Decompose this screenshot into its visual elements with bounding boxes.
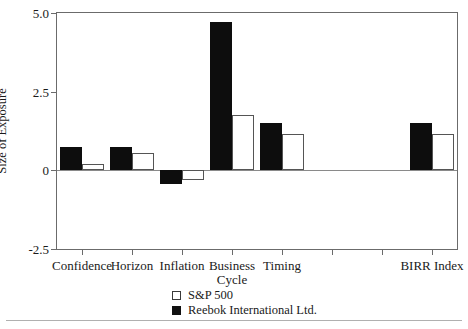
legend-label-reebok: Reebok International Ltd. [188, 303, 317, 318]
chart-legend: S&P 500 Reebok International Ltd. [172, 288, 317, 318]
bar-reebok [160, 170, 182, 184]
bar-sp500 [182, 170, 204, 179]
x-tick-mark [332, 249, 333, 255]
x-axis-category-label: Inflation [160, 259, 205, 273]
y-tick-mark [51, 170, 57, 171]
x-tick-mark [432, 249, 433, 255]
legend-item-sp500: S&P 500 [172, 288, 317, 303]
open-square-swatch-icon [172, 291, 181, 300]
x-axis-category-label: BusinessCycle [209, 259, 255, 286]
bar-reebok [260, 123, 282, 170]
bar-sp500 [232, 115, 254, 170]
x-tick-mark [232, 249, 233, 255]
bar-sp500 [432, 134, 454, 170]
y-tick-label: 0 [43, 164, 50, 177]
y-tick-mark [51, 249, 57, 250]
x-tick-mark [82, 249, 83, 255]
bar-sp500 [132, 153, 154, 170]
legend-item-reebok: Reebok International Ltd. [172, 303, 317, 318]
bar-reebok [60, 147, 82, 171]
zero-baseline [57, 170, 457, 171]
bar-sp500 [282, 134, 304, 170]
page-divider-rule [6, 320, 462, 321]
y-tick-mark [51, 13, 57, 14]
bar-reebok [110, 147, 132, 171]
y-tick-label: 2.5 [33, 85, 49, 98]
y-axis-title: Size of Exposure [0, 88, 8, 173]
x-tick-mark [182, 249, 183, 255]
x-axis-category-label: BIRR Index [400, 259, 463, 273]
legend-label-sp500: S&P 500 [188, 288, 233, 303]
x-tick-mark [382, 249, 383, 255]
chart-screenshot: 5.02.50-2.5ConfidenceHorizonInflationBus… [0, 0, 468, 329]
plot-area: 5.02.50-2.5ConfidenceHorizonInflationBus… [56, 12, 458, 250]
bar-reebok [210, 22, 232, 170]
x-tick-mark [132, 249, 133, 255]
y-tick-label: 5.0 [33, 7, 49, 20]
y-tick-label: -2.5 [28, 243, 49, 256]
filled-square-swatch-icon [172, 306, 181, 315]
x-tick-mark [282, 249, 283, 255]
y-tick-mark [51, 92, 57, 93]
bar-sp500 [82, 164, 104, 170]
x-axis-category-label: Horizon [111, 259, 154, 273]
bar-reebok [410, 123, 432, 170]
x-axis-category-label: Timing [263, 259, 301, 273]
x-axis-category-label: Confidence [52, 259, 112, 273]
